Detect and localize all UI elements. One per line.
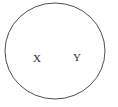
set-label-y: Y: [73, 52, 81, 63]
set-label-x: X: [33, 53, 41, 64]
set-diagram-graphic: [0, 0, 118, 107]
universal-set-circle: [5, 3, 105, 99]
diagram-canvas: X Y: [0, 0, 118, 107]
